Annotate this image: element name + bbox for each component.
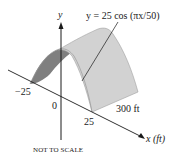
- not-to-scale-note: NOT TO SCALE: [33, 147, 83, 154]
- y-axis-arrowhead: [59, 22, 64, 29]
- y-axis-label: y: [58, 10, 62, 20]
- tick-label-0: 0: [52, 101, 57, 111]
- tick-label-neg-25: −25: [15, 87, 31, 97]
- arch-top-surface: [58, 28, 138, 112]
- x-axis-label: x (ft): [146, 134, 165, 144]
- arch-diagram: y y = 25 cos (πx/50) −25 0 25 300 ft x (…: [0, 0, 181, 164]
- equation-label: y = 25 cos (πx/50): [86, 11, 159, 21]
- x-axis-arrowhead: [138, 133, 145, 139]
- arch-underside: [30, 49, 72, 84]
- length-label: 300 ft: [116, 104, 140, 114]
- tick-label-25: 25: [84, 117, 94, 127]
